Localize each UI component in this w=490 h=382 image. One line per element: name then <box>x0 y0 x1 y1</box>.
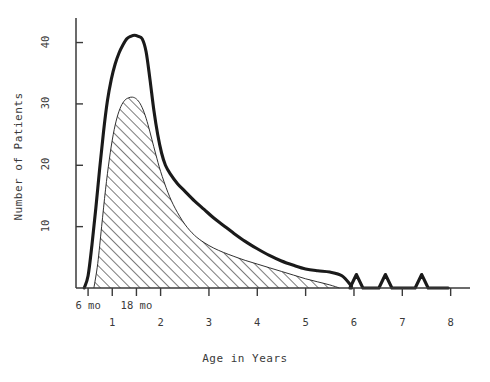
x-tick-label-months: 18 mo <box>106 299 166 311</box>
chart-figure: Number of Patients Age in Years 10203040… <box>0 0 490 382</box>
x-tick-label-years: 5 <box>284 316 328 328</box>
y-tick-label: 40 <box>39 25 51 59</box>
late-age-bumps <box>350 275 448 289</box>
x-axis-title: Age in Years <box>0 352 490 365</box>
x-tick-label-years: 1 <box>90 316 134 328</box>
x-tick-label-years: 6 <box>332 316 376 328</box>
y-axis-title: Number of Patients <box>12 77 25 237</box>
y-axis-ticks <box>76 43 83 227</box>
hatched-subgroup-area <box>94 97 340 288</box>
x-tick-label-years: 8 <box>429 316 473 328</box>
x-tick-label-years: 3 <box>187 316 231 328</box>
y-tick-label: 10 <box>39 209 51 243</box>
y-tick-label: 30 <box>39 86 51 120</box>
x-tick-label-years: 2 <box>139 316 183 328</box>
x-tick-label-years: 4 <box>235 316 279 328</box>
y-tick-label: 20 <box>39 147 51 181</box>
x-tick-label-years: 7 <box>380 316 424 328</box>
